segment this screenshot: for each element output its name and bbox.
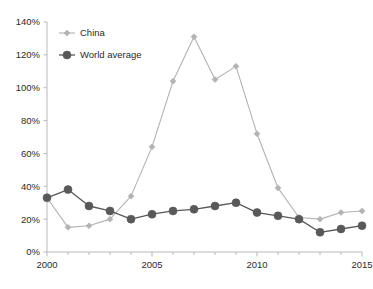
y-tick-label: 40% <box>21 181 41 192</box>
data-point <box>149 144 155 150</box>
legend-marker-swatch <box>63 51 71 59</box>
y-tick-label: 0% <box>26 246 40 257</box>
data-point <box>317 216 323 222</box>
data-point <box>253 209 261 217</box>
data-point <box>85 202 93 210</box>
line-chart: 0%20%40%60%80%100%120%140% 2000200520102… <box>0 0 373 289</box>
data-point <box>106 207 114 215</box>
data-point <box>233 63 239 69</box>
series-line <box>47 190 362 233</box>
data-point <box>211 202 219 210</box>
data-point <box>359 208 365 214</box>
x-tick-label: 2015 <box>351 259 372 270</box>
data-point <box>86 223 92 229</box>
y-tick-label: 100% <box>16 82 41 93</box>
data-point <box>127 215 135 223</box>
y-tick-label: 20% <box>21 214 41 225</box>
series-line <box>47 37 362 228</box>
x-tick-label: 2010 <box>246 259 267 270</box>
y-tick-label: 80% <box>21 115 41 126</box>
data-point <box>337 225 345 233</box>
data-point <box>295 215 303 223</box>
data-point <box>316 228 324 236</box>
legend-item-world-average: World average <box>59 49 142 60</box>
data-point <box>358 222 366 230</box>
y-tick-label: 120% <box>16 49 41 60</box>
data-series-group <box>43 34 366 237</box>
x-tick-label: 2005 <box>141 259 162 270</box>
series-world-average <box>43 186 366 237</box>
data-point <box>148 210 156 218</box>
legend-label: China <box>80 27 106 38</box>
series-china <box>44 34 365 231</box>
y-tick-label: 60% <box>21 148 41 159</box>
legend-label: World average <box>80 49 142 60</box>
data-point <box>338 210 344 216</box>
data-point <box>191 34 197 40</box>
data-point <box>64 186 72 194</box>
y-tick-label: 140% <box>16 16 41 27</box>
data-point <box>190 205 198 213</box>
data-point <box>212 77 218 83</box>
data-point <box>274 212 282 220</box>
chart-legend: ChinaWorld average <box>59 27 142 60</box>
data-point <box>169 207 177 215</box>
x-tick-label: 2000 <box>36 259 57 270</box>
data-point <box>254 131 260 137</box>
legend-item-china: China <box>59 27 106 38</box>
data-point <box>232 199 240 207</box>
data-point <box>170 78 176 84</box>
data-point <box>43 194 51 202</box>
chart-canvas: 0%20%40%60%80%100%120%140% 2000200520102… <box>0 0 373 289</box>
y-axis: 0%20%40%60%80%100%120%140% <box>16 16 47 257</box>
legend-marker-swatch <box>64 30 70 36</box>
x-axis: 2000200520102015 <box>36 252 372 270</box>
